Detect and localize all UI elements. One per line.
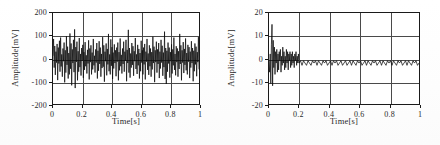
- x-axis-tick: [170, 105, 171, 108]
- x-axis-tick: [298, 105, 299, 108]
- x-axis-tick-label: 0.2: [293, 110, 304, 119]
- y-axis-tick-label: 20: [236, 8, 263, 17]
- plot-area-right: [268, 12, 420, 105]
- waveform-path-left: [53, 29, 199, 88]
- y-axis-title-right: Amplitude[mV]: [226, 29, 236, 86]
- x-axis-tick: [329, 105, 330, 108]
- y-axis-tick-label: -10: [236, 77, 263, 86]
- x-axis-tick: [200, 105, 201, 108]
- y-axis-tick-label: 0: [236, 54, 263, 63]
- x-axis-tick-label: 0.2: [76, 110, 87, 119]
- y-axis-tick: [265, 35, 268, 36]
- y-axis-tick-label: -20: [236, 101, 263, 110]
- y-axis-tick: [49, 35, 52, 36]
- y-axis-title-left: Amplitude[mV]: [10, 29, 20, 86]
- x-axis-tick-label: 0: [266, 110, 270, 119]
- x-axis-tick-label: 0.8: [165, 110, 176, 119]
- x-axis-tick-label: 0: [50, 110, 54, 119]
- y-axis-tick-label: 200: [20, 8, 47, 17]
- y-axis-tick: [265, 12, 268, 13]
- x-axis-tick: [52, 105, 53, 108]
- y-axis-tick-label: 10: [236, 31, 263, 40]
- y-axis-tick-label: -100: [20, 77, 47, 86]
- y-axis-tick: [49, 59, 52, 60]
- x-axis-tick: [268, 105, 269, 108]
- x-axis-tick-label: 0.8: [384, 110, 395, 119]
- x-axis-tick: [390, 105, 391, 108]
- x-axis-title-left: Time[s]: [112, 116, 140, 126]
- waveform-left: [53, 13, 199, 104]
- y-axis-tick: [265, 59, 268, 60]
- x-axis-tick: [82, 105, 83, 108]
- y-axis-tick-label: -200: [20, 101, 47, 110]
- y-axis-tick: [265, 105, 268, 106]
- y-axis-tick: [49, 12, 52, 13]
- x-axis-tick: [141, 105, 142, 108]
- y-axis-tick-label: 0: [20, 54, 47, 63]
- chart-panel-right: 00.20.40.60.81-20-1001020 Amplitude[mV] …: [220, 0, 440, 145]
- waveform-right: [269, 13, 419, 104]
- chart-panel-left: 00.20.40.60.81-200-1000100200 Amplitude[…: [0, 0, 220, 145]
- y-axis-tick: [265, 82, 268, 83]
- x-axis-tick: [359, 105, 360, 108]
- x-axis-tick: [111, 105, 112, 108]
- waveform-path-right: [269, 24, 419, 85]
- y-axis-tick: [49, 82, 52, 83]
- x-axis-tick-label: 1: [418, 110, 422, 119]
- plot-area-left: [52, 12, 200, 105]
- x-axis-title-right: Time[s]: [330, 116, 358, 126]
- y-axis-tick-label: 100: [20, 31, 47, 40]
- x-axis-tick-label: 1: [198, 110, 202, 119]
- x-axis-tick: [420, 105, 421, 108]
- figure-container: 00.20.40.60.81-200-1000100200 Amplitude[…: [0, 0, 440, 145]
- y-axis-tick: [49, 105, 52, 106]
